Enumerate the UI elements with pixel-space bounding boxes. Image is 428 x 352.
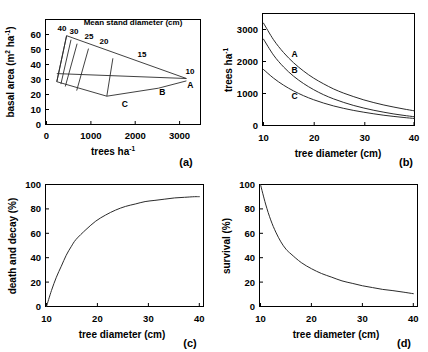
panel-a-point-label-C: C [122, 99, 128, 109]
panel-a-x-ticks [47, 121, 180, 125]
panel-d-y-ticks [260, 185, 264, 307]
panel-b-y-ticks [263, 30, 267, 126]
panel-a-xtick-2000: 2000 [125, 130, 146, 141]
panel-b-svg: 0 1000 2000 3000 10 20 30 40 tree diamet… [214, 0, 428, 176]
panel-a-lower-envelope [57, 81, 187, 96]
panel-c-letter: (c) [183, 337, 197, 349]
panel-d-x-axis-title: tree diameter (cm) [293, 329, 380, 340]
panel-a-ytick-60: 60 [30, 29, 41, 40]
panel-c-ytick-40: 40 [30, 252, 41, 263]
panel-a-isolabel-25: 25 [85, 32, 94, 41]
panel-a-ytick-0: 0 [36, 119, 41, 130]
panel-b-trees-vs-diameter: 0 1000 2000 3000 10 20 30 40 tree diamet… [214, 0, 428, 176]
panel-b-x-axis-title: tree diameter (cm) [295, 148, 382, 159]
panel-b-series-label-B: B [292, 65, 298, 75]
panel-a-xtick-0: 0 [44, 130, 49, 141]
panel-c-ytick-20: 20 [30, 277, 41, 288]
panel-c-ytick-60: 60 [30, 228, 41, 239]
panel-d-xtick-20: 20 [306, 313, 317, 324]
panel-a-xtick-3000: 3000 [169, 130, 190, 141]
panel-b-xtick-40: 40 [409, 132, 420, 143]
panel-d-ytick-40: 40 [244, 252, 255, 263]
panel-c-curve [47, 197, 200, 307]
panel-d-xtick-30: 30 [357, 313, 368, 324]
panel-b-y-axis-title: trees ha-1 [222, 48, 234, 93]
panel-d-ytick-80: 80 [244, 203, 255, 214]
panel-a-stand-density-diagram: 0 10 20 30 40 50 60 0 1000 2000 3000 tre… [0, 0, 214, 176]
panel-a-chart-title: Mean stand diameter (cm) [84, 18, 183, 27]
panel-b-plot-frame [263, 14, 415, 126]
panel-a-ytick-10: 10 [30, 104, 41, 115]
panel-a-ytick-20: 20 [30, 89, 41, 100]
panel-a-svg: 0 10 20 30 40 50 60 0 1000 2000 3000 tre… [0, 0, 214, 176]
panel-a-isolabel-20: 20 [100, 37, 109, 46]
panel-a-isolabel-40: 40 [58, 24, 67, 33]
panel-c-x-ticks [47, 303, 200, 307]
panel-a-x-axis-title: trees ha-1 [91, 145, 136, 157]
panel-a-isolabel-10: 10 [186, 67, 195, 76]
panel-d-xtick-10: 10 [255, 313, 266, 324]
panel-a-isolabel-30: 30 [70, 27, 79, 36]
panel-c-plot-frame [46, 185, 204, 307]
panel-c-ytick-0: 0 [36, 301, 41, 312]
panel-d-ytick-100: 100 [239, 179, 255, 190]
panel-c-ytick-100: 100 [25, 179, 41, 190]
panel-d-ytick-60: 60 [244, 228, 255, 239]
panel-b-xtick-20: 20 [309, 132, 320, 143]
panel-c-y-ticks [46, 185, 50, 307]
panel-c-ytick-80: 80 [30, 203, 41, 214]
panel-b-series-label-C: C [292, 91, 298, 101]
panel-a-point-label-A: A [187, 80, 193, 90]
panel-a-y-ticks [46, 35, 50, 125]
panel-d-y-axis-title: survival (%) [221, 218, 232, 274]
panel-a-isolabel-15: 15 [138, 50, 147, 59]
panel-d-ytick-20: 20 [244, 277, 255, 288]
panel-c-xtick-20: 20 [92, 313, 103, 324]
panel-c-svg: 0 20 40 60 80 100 10 20 30 40 tree diame… [0, 176, 214, 352]
panel-a-point-label-B: B [159, 87, 165, 97]
panel-d-ytick-0: 0 [250, 301, 255, 312]
panel-d-letter: (d) [397, 337, 411, 349]
panel-b-curve-A [264, 23, 415, 111]
panel-b-xtick-30: 30 [360, 132, 371, 143]
panel-b-x-ticks [264, 122, 415, 126]
panel-b-ytick-1000: 1000 [237, 88, 258, 99]
panel-a-y-axis-title: basal area (m2 ha-1) [4, 26, 16, 117]
panel-c-y-axis-title: death and decay (%) [7, 198, 18, 295]
panel-b-series-label-A: A [292, 49, 298, 59]
panel-c-xtick-30: 30 [143, 313, 154, 324]
panel-a-letter: (a) [179, 156, 193, 168]
panel-c-xtick-10: 10 [41, 313, 52, 324]
panel-b-ytick-3000: 3000 [237, 24, 258, 35]
panel-d-survival: 0 20 40 60 80 100 10 20 30 40 tree diame… [214, 176, 428, 352]
panel-d-svg: 0 20 40 60 80 100 10 20 30 40 tree diame… [214, 176, 428, 352]
panel-c-death-and-decay: 0 20 40 60 80 100 10 20 30 40 tree diame… [0, 176, 214, 352]
panel-c-xtick-40: 40 [194, 313, 205, 324]
panel-c-x-axis-title: tree diameter (cm) [79, 329, 166, 340]
panel-d-xtick-40: 40 [408, 313, 419, 324]
panel-d-x-ticks [261, 303, 414, 307]
panel-b-curve-C [264, 70, 415, 119]
panel-b-xtick-10: 10 [258, 132, 269, 143]
panel-b-letter: (b) [399, 156, 413, 168]
panel-a-ytick-40: 40 [30, 59, 41, 70]
panel-b-curve-B [264, 39, 415, 117]
panel-a-mid-line [57, 74, 187, 79]
panel-a-ytick-50: 50 [30, 44, 41, 55]
panel-d-curve [261, 185, 414, 294]
panel-a-xtick-1000: 1000 [80, 130, 101, 141]
panel-a-ytick-30: 30 [30, 74, 41, 85]
panel-b-ytick-2000: 2000 [237, 56, 258, 67]
four-panel-figure: 0 10 20 30 40 50 60 0 1000 2000 3000 tre… [0, 0, 428, 352]
panel-a-upper-envelope [57, 36, 187, 82]
panel-b-ytick-0: 0 [253, 120, 258, 131]
